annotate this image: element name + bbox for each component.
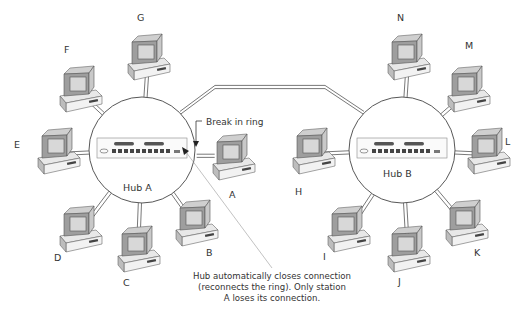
- station-label-f: F: [64, 45, 69, 55]
- station-label-e: E: [14, 140, 20, 150]
- computer-icon: [38, 128, 80, 174]
- callout-line-3: A loses its connection.: [177, 293, 367, 304]
- station-label-g: G: [137, 13, 144, 23]
- station-label-j: J: [398, 277, 401, 287]
- computer-icon: [328, 206, 370, 252]
- computer-icon: [388, 226, 430, 272]
- station-j: [388, 203, 430, 272]
- station-d: [60, 191, 111, 252]
- computer-icon: [118, 226, 160, 272]
- hub-b: [349, 97, 455, 203]
- station-label-m: M: [465, 41, 473, 51]
- station-label-k: K: [474, 248, 480, 258]
- computer-icon: [468, 128, 510, 174]
- station-label-n: N: [397, 13, 404, 23]
- callout-line-1: Hub automatically closes connection: [177, 271, 367, 282]
- station-i: [328, 193, 374, 252]
- computer-icon: [448, 66, 490, 112]
- computer-icon: [128, 34, 170, 80]
- station-m: [441, 66, 490, 116]
- station-label-l: L: [505, 137, 510, 147]
- callout-text: Hub automatically closes connection (rec…: [177, 271, 367, 304]
- break-in-ring-arrow-icon: [193, 121, 202, 147]
- station-label-i: I: [323, 252, 326, 262]
- hub-b-device-icon: [357, 138, 447, 158]
- computer-icon: [213, 134, 255, 180]
- computer-icon: [60, 66, 102, 112]
- station-g: [128, 34, 170, 97]
- hub-a-label: Hub A: [123, 182, 152, 193]
- computer-icon: [60, 206, 102, 252]
- station-label-b: B: [206, 248, 213, 258]
- computer-icon: [293, 128, 335, 174]
- station-a: [197, 134, 255, 180]
- station-f: [60, 66, 104, 115]
- station-e: [38, 128, 89, 174]
- station-label-c: C: [123, 278, 130, 288]
- station-label-a: A: [229, 190, 236, 200]
- station-label-d: D: [54, 253, 61, 263]
- computer-icon: [388, 34, 430, 80]
- diagram-canvas: [0, 0, 519, 313]
- station-l: [455, 128, 510, 174]
- break-in-ring-label: Break in ring: [206, 117, 264, 127]
- hub-a-device-icon: [97, 138, 187, 158]
- computer-icon: [176, 200, 218, 246]
- callout-line-2: (reconnects the ring). Only station: [177, 282, 367, 293]
- hub-b-label: Hub B: [383, 168, 412, 179]
- station-h: [293, 128, 349, 174]
- station-label-h: H: [295, 187, 302, 197]
- station-k: [435, 190, 488, 246]
- station-b: [171, 192, 218, 246]
- station-c: [118, 203, 160, 272]
- network-diagram: Hub A Hub B Break in ring Hub automatica…: [0, 0, 519, 313]
- ring-link: [180, 85, 364, 114]
- computer-icon: [446, 200, 488, 246]
- station-n: [388, 34, 430, 97]
